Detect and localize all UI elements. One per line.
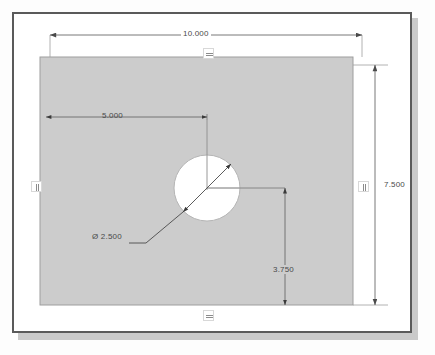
constraint-bar <box>206 55 213 56</box>
sketch-canvas[interactable] <box>0 0 435 355</box>
overall-height-dimension-text[interactable]: 7.500 <box>382 180 407 189</box>
overall-width-dimension-text[interactable]: 10.000 <box>181 29 211 38</box>
hole-diameter-dimension-text[interactable]: Ø 2.500 <box>90 232 124 241</box>
cad-sketch-screenshot: 10.000 7.500 5.000 3.750 Ø 2.500 <box>0 0 435 355</box>
horizontal-constraint-icon-bottom[interactable] <box>203 310 214 321</box>
constraint-bar <box>363 184 364 191</box>
constraint-bar <box>38 184 39 191</box>
vertical-constraint-icon-right[interactable] <box>358 181 369 192</box>
constraint-bar <box>206 53 213 54</box>
constraint-bar <box>206 315 213 316</box>
constraint-bar <box>36 184 37 191</box>
vertical-constraint-icon-left[interactable] <box>31 181 42 192</box>
hole-x-offset-dimension-text[interactable]: 5.000 <box>100 111 125 120</box>
constraint-bar <box>206 317 213 318</box>
horizontal-constraint-icon-top[interactable] <box>203 48 214 59</box>
hole-y-offset-dimension-text[interactable]: 3.750 <box>271 265 296 274</box>
constraint-bar <box>365 184 366 191</box>
